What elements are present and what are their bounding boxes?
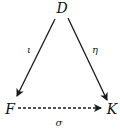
arrow-d-to-k <box>68 18 107 100</box>
node-k: K <box>106 101 119 117</box>
arrow-d-to-f <box>17 19 55 96</box>
label-sigma: σ <box>56 117 64 128</box>
node-d: D <box>55 0 67 16</box>
label-iota: ι <box>27 44 31 55</box>
commutative-diagram: D F K ι η σ <box>0 0 120 133</box>
label-eta: η <box>92 44 98 55</box>
node-f: F <box>4 101 16 117</box>
